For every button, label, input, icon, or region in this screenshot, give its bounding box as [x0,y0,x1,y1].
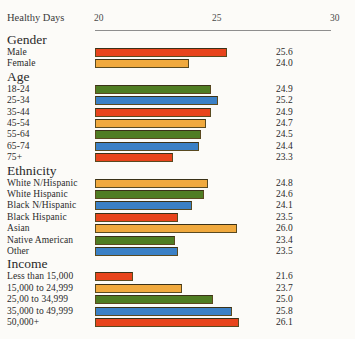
bar-value-label: 24.5 [276,129,293,140]
bar-green [95,190,204,199]
bar-row: White N/Hispanic24.8 [0,178,355,189]
chart-title: Healthy Days [7,12,64,24]
bar-category-label: Black Hispanic [7,212,67,223]
bar-value-label: 24.9 [276,107,293,118]
bar-category-label: 55-64 [7,129,30,140]
bar-value-label: 23.4 [276,235,293,246]
bar-category-label: Less than 15,000 [7,271,73,282]
bar-value-label: 23.5 [276,212,293,223]
bar-category-label: 15,000 to 24,999 [7,283,73,294]
bar-row: Female24.0 [0,58,355,69]
bar-green [95,85,211,94]
bar-row: 25-3425.2 [0,95,355,106]
bar-value-label: 24.0 [276,58,293,69]
bar-red [95,153,173,162]
bar-value-label: 23.5 [276,246,293,257]
bar-amber [95,224,237,233]
bar-value-label: 21.6 [276,271,293,282]
bar-value-label: 24.1 [276,200,293,211]
group-heading-gender: Gender [7,33,47,47]
bar-category-label: Black N/Hispanic [7,200,76,211]
bar-row: Less than 15,00021.6 [0,271,355,282]
bar-row: Black N/Hispanic24.1 [0,200,355,211]
bar-blue [95,96,218,105]
bar-amber [95,59,189,68]
bar-value-label: 25.2 [276,95,293,106]
bar-category-label: Male [7,47,27,58]
bar-category-label: 35-44 [7,107,30,118]
bar-row: 75+23.3 [0,152,355,163]
bar-red [95,108,211,117]
bar-category-label: White Hispanic [7,189,68,200]
bar-row: 35,000 to 49,99925.8 [0,306,355,317]
bar-value-label: 26.1 [276,317,293,328]
x-axis-tick-25: 25 [212,13,222,24]
healthy-days-bar-chart: Healthy Days 20 25 30 GenderMale25.6Fema… [0,0,355,339]
group-heading-income: Income [7,257,47,271]
bar-row: 25,00 to 34,99925.0 [0,294,355,305]
bar-green [95,130,201,139]
bar-category-label: 65-74 [7,141,30,152]
bar-row: 18-2424.9 [0,84,355,95]
bar-value-label: 23.7 [276,283,293,294]
bar-value-label: 25.0 [276,294,293,305]
bar-category-label: Asian [7,223,30,234]
bar-row: White Hispanic24.6 [0,189,355,200]
bar-category-label: 50,000+ [7,317,39,328]
x-axis-line [95,30,331,31]
bar-value-label: 25.6 [276,47,293,58]
bar-value-label: 25.8 [276,306,293,317]
bar-row: 45-5424.7 [0,118,355,129]
bar-category-label: Other [7,246,29,257]
bar-red [95,213,178,222]
bar-category-label: White N/Hispanic [7,178,77,189]
bar-category-label: 25,00 to 34,999 [7,294,68,305]
x-axis-tick-30: 30 [330,13,340,24]
bar-category-label: 75+ [7,152,22,163]
bar-amber [95,179,208,188]
bar-category-label: 25-34 [7,95,30,106]
bar-category-label: Native American [7,235,73,246]
bar-row: 55-6424.5 [0,129,355,140]
bar-value-label: 26.0 [276,223,293,234]
bar-blue [95,201,192,210]
bar-category-label: 35,000 to 49,999 [7,306,73,317]
bar-value-label: 24.7 [276,118,293,129]
bar-green [95,295,213,304]
bar-value-label: 24.9 [276,84,293,95]
bar-blue [95,247,178,256]
bar-row: 50,000+26.1 [0,317,355,328]
bar-green [95,236,175,245]
bar-category-label: Female [7,58,36,69]
bar-value-label: 24.4 [276,141,293,152]
bar-value-label: 24.8 [276,178,293,189]
bar-amber [95,284,182,293]
bar-row: Native American23.4 [0,235,355,246]
bar-row: 65-7424.4 [0,141,355,152]
bar-red [95,272,133,281]
bar-red [95,318,239,327]
bar-row: Other23.5 [0,246,355,257]
bar-row: Asian26.0 [0,223,355,234]
bar-category-label: 45-54 [7,118,30,129]
bar-row: Black Hispanic23.5 [0,212,355,223]
bar-value-label: 23.3 [276,152,293,163]
bar-blue [95,307,232,316]
bar-red [95,48,227,57]
bar-category-label: 18-24 [7,84,30,95]
group-heading-age: Age [7,70,30,84]
bar-row: 15,000 to 24,99923.7 [0,283,355,294]
x-axis-tick-20: 20 [94,13,104,24]
bar-row: 35-4424.9 [0,107,355,118]
bar-blue [95,142,199,151]
group-heading-ethnicity: Ethnicity [7,164,57,178]
bar-value-label: 24.6 [276,189,293,200]
bar-row: Male25.6 [0,47,355,58]
bar-amber [95,119,206,128]
